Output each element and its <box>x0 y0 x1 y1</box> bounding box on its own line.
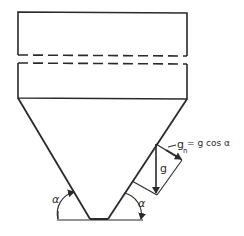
alpha-label-right: α <box>138 197 146 210</box>
hopper-cone <box>18 98 187 219</box>
normal-component-vector <box>166 150 181 159</box>
angle-arc-left <box>57 192 74 219</box>
normal-component-subscript: n <box>183 147 187 155</box>
normal-component-equation: = g cos α <box>187 138 230 148</box>
silo-upper-section <box>18 12 187 56</box>
silo-lower-section <box>18 63 187 99</box>
alpha-label-left: α <box>52 193 60 206</box>
silo-diagram: α α g g n = g cos α <box>0 0 244 236</box>
gravity-label: g <box>160 162 167 175</box>
label-leader <box>168 145 176 147</box>
force-triangle <box>132 144 182 195</box>
